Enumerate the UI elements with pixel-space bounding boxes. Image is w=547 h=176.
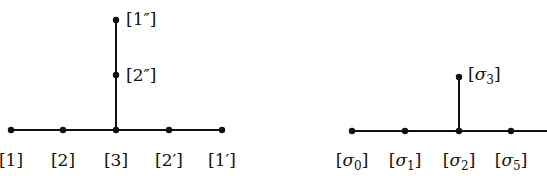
node-1 [8, 127, 14, 133]
node-1-double-prime [113, 17, 119, 23]
node-sigma-1 [402, 128, 408, 134]
label-sigma-0: [σ0] [336, 150, 369, 173]
node-3 [113, 127, 119, 133]
node-2-double-prime [113, 72, 119, 78]
node-2-prime [166, 127, 172, 133]
label-1: [1] [0, 150, 23, 170]
label-1-double-prime: [1″] [126, 9, 156, 29]
label-3: [3] [104, 150, 128, 170]
node-1-prime [219, 127, 225, 133]
label-sigma-1: [σ1] [389, 150, 422, 173]
node-sigma-2 [456, 128, 462, 134]
node-sigma-0 [349, 128, 355, 134]
node-sigma-5 [508, 128, 514, 134]
label-2-double-prime: [2″] [126, 65, 156, 85]
label-sigma-2: [σ2] [443, 150, 476, 173]
dynkin-diagram-right: [σ0] [σ1] [σ2] [σ5] [σ3] [336, 64, 547, 173]
label-1-prime: [1′] [208, 150, 236, 170]
label-2: [2] [51, 150, 75, 170]
label-sigma-5: [σ5] [495, 150, 528, 173]
label-sigma-3: [σ3] [468, 64, 501, 87]
diagram-canvas: [1] [2] [3] [2′] [1′] [2″] [1″] [σ0] [σ1… [0, 0, 547, 176]
node-sigma-3 [456, 74, 462, 80]
dynkin-diagram-left: [1] [2] [3] [2′] [1′] [2″] [1″] [0, 9, 236, 170]
label-2-prime: [2′] [155, 150, 183, 170]
node-2 [60, 127, 66, 133]
